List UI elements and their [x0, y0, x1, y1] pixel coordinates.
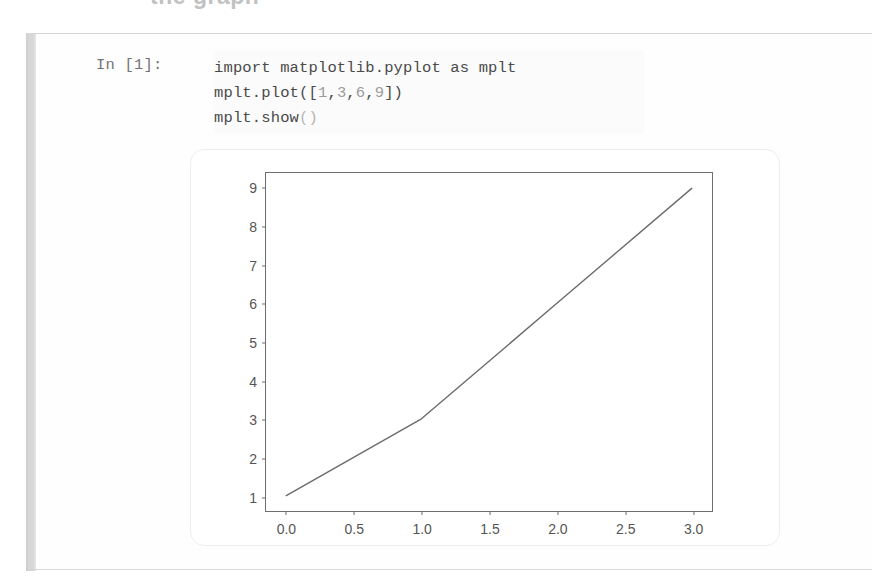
ytick-mark: [262, 458, 266, 459]
xtick-label: 1.0: [412, 521, 431, 537]
xtick-label: 0.0: [277, 521, 296, 537]
ytick-mark: [262, 343, 266, 344]
xtick-mark: [490, 511, 491, 515]
xtick-mark: [625, 511, 626, 515]
ytick-label: 6: [249, 296, 257, 312]
plot-line-series: [266, 173, 712, 511]
input-prompt-label: In [1]:: [96, 56, 163, 74]
xtick-mark: [354, 511, 355, 515]
ytick-label: 3: [249, 412, 257, 428]
xtick-label: 1.5: [480, 521, 499, 537]
xtick-mark: [422, 511, 423, 515]
xtick-label: 2.5: [616, 521, 635, 537]
xtick-mark: [693, 511, 694, 515]
ytick-label: 2: [249, 451, 257, 467]
xtick-mark: [557, 511, 558, 515]
ytick-label: 4: [249, 374, 257, 390]
ytick-mark: [262, 188, 266, 189]
xtick-label: 0.5: [345, 521, 364, 537]
clipped-heading-text: the graph: [150, 0, 259, 10]
code-editor-area[interactable]: import matplotlib.pyplot as mplt mplt.pl…: [214, 50, 644, 134]
cell-gutter-bar: [26, 34, 36, 571]
code-source-text[interactable]: import matplotlib.pyplot as mplt mplt.pl…: [214, 56, 516, 131]
ytick-mark: [262, 420, 266, 421]
ytick-mark: [262, 304, 266, 305]
ytick-label: 8: [249, 219, 257, 235]
ytick-mark: [262, 381, 266, 382]
xtick-mark: [286, 511, 287, 515]
ytick-label: 7: [249, 258, 257, 274]
plot-axes: 1234567890.00.51.01.52.02.53.0: [265, 172, 713, 512]
figure-output-container: 1234567890.00.51.01.52.02.53.0: [190, 149, 780, 546]
ytick-label: 5: [249, 335, 257, 351]
notebook-code-cell: In [1]: import matplotlib.pyplot as mplt…: [26, 33, 872, 570]
ytick-mark: [262, 265, 266, 266]
ytick-mark: [262, 497, 266, 498]
ytick-label: 9: [249, 180, 257, 196]
ytick-label: 1: [249, 490, 257, 506]
series-polyline: [286, 188, 691, 495]
ytick-mark: [262, 227, 266, 228]
clipped-heading-remnant: the graph: [0, 0, 890, 14]
xtick-label: 3.0: [684, 521, 703, 537]
xtick-label: 2.0: [548, 521, 567, 537]
